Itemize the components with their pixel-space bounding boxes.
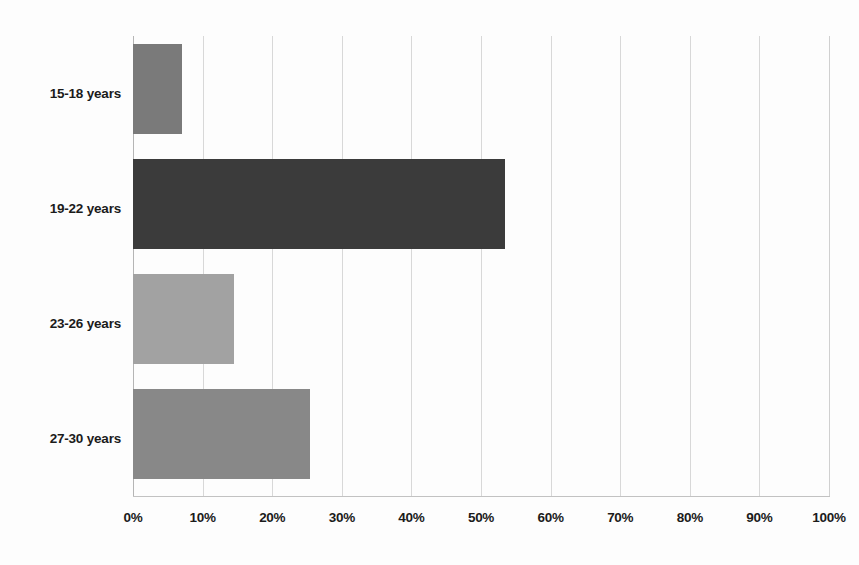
x-axis-tick-30: 30% [329,510,355,525]
x-axis-tick-50: 50% [468,510,494,525]
y-axis-category-labels: 15-18 years 19-22 years 23-26 years 27-3… [0,36,121,496]
bar-chart: 15-18 years 19-22 years 23-26 years 27-3… [0,0,859,565]
x-axis-tick-80: 80% [677,510,703,525]
y-axis-label-3: 27-30 years [50,431,121,446]
gridline-70 [620,36,621,496]
y-axis-label-2: 23-26 years [50,316,121,331]
gridline-50 [481,36,482,496]
x-axis-tick-10: 10% [190,510,216,525]
gridline-40 [411,36,412,496]
x-axis-tick-60: 60% [538,510,564,525]
x-axis-tick-40: 40% [398,510,424,525]
x-axis-tick-70: 70% [607,510,633,525]
gridline-90 [759,36,760,496]
gridline-60 [551,36,552,496]
gridline-80 [690,36,691,496]
x-axis-tick-0: 0% [124,510,143,525]
gridline-100 [829,36,830,496]
x-axis-tick-100: 100% [812,510,845,525]
x-axis-baseline [133,496,830,497]
bar-3 [133,389,310,479]
bar-1 [133,159,505,249]
y-axis-label-1: 19-22 years [50,201,121,216]
x-axis-tick-20: 20% [259,510,285,525]
y-axis-label-0: 15-18 years [50,86,121,101]
x-axis-tick-90: 90% [746,510,772,525]
plot-area [133,36,829,496]
bar-2 [133,274,234,364]
bar-0 [133,44,182,134]
gridline-30 [342,36,343,496]
